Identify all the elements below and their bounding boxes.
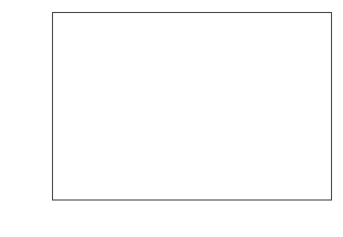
figure-container [0,0,343,237]
plot-frame [53,13,332,201]
neutron-spectrum-chart [0,0,343,237]
